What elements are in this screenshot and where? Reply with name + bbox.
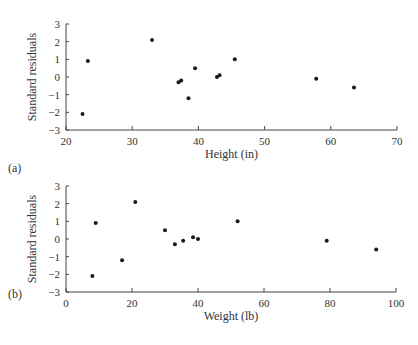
- x-tick-label: 80: [325, 297, 337, 309]
- x-tick-label: 30: [127, 135, 139, 147]
- data-point: [218, 73, 222, 77]
- data-point: [186, 96, 190, 100]
- data-point: [374, 248, 378, 252]
- data-point: [236, 219, 240, 223]
- x-tick-label: 60: [325, 135, 337, 147]
- y-tick-label: 2: [55, 198, 61, 210]
- y-tick-label: 1: [55, 215, 61, 227]
- y-tick-label: −3: [48, 286, 60, 298]
- data-point: [173, 242, 177, 246]
- x-tick-label: 40: [193, 135, 205, 147]
- x-tick-label: 20: [127, 297, 139, 309]
- residual-plots-figure: 3210−1−2−3203040506070Height (in)Standar…: [0, 0, 418, 345]
- x-axis-title: Weight (lb): [204, 309, 259, 323]
- y-tick-label: 2: [55, 36, 61, 48]
- x-tick-label: 20: [61, 135, 73, 147]
- data-point: [150, 38, 154, 42]
- y-tick-label: −3: [48, 124, 60, 136]
- x-tick-label: 40: [193, 297, 205, 309]
- data-point: [179, 79, 183, 83]
- data-point: [90, 274, 94, 278]
- data-point: [233, 57, 237, 61]
- y-tick-label: 1: [55, 53, 61, 65]
- x-tick-label: 50: [259, 135, 271, 147]
- data-point: [193, 66, 197, 70]
- x-tick-label: 0: [63, 297, 69, 309]
- y-tick-label: −1: [48, 89, 60, 101]
- x-tick-label: 60: [259, 297, 271, 309]
- y-tick-label: 3: [55, 18, 61, 30]
- x-tick-label: 100: [388, 297, 405, 309]
- data-point: [181, 239, 185, 243]
- data-point: [191, 235, 195, 239]
- y-axis-title: Standard residuals: [25, 33, 39, 122]
- data-point: [352, 86, 356, 90]
- y-tick-label: 3: [55, 180, 61, 192]
- panel-b-weight: 3210−1−2−3020406080100Weight (lb)Standar…: [8, 180, 405, 323]
- panel-label: (a): [8, 161, 21, 175]
- data-point: [325, 239, 329, 243]
- y-tick-label: 0: [55, 71, 61, 83]
- y-tick-label: −1: [48, 251, 60, 263]
- y-axis-title: Standard residuals: [25, 195, 39, 284]
- data-point: [314, 77, 318, 81]
- data-point: [86, 59, 90, 63]
- data-point: [163, 228, 167, 232]
- panel-a-height: 3210−1−2−3203040506070Height (in)Standar…: [8, 18, 403, 175]
- panel-label: (b): [8, 287, 22, 301]
- data-point: [120, 258, 124, 262]
- data-point: [94, 221, 98, 225]
- x-tick-label: 70: [392, 135, 404, 147]
- x-axis-title: Height (in): [205, 147, 258, 161]
- data-point: [196, 237, 200, 241]
- y-tick-label: −2: [48, 268, 60, 280]
- data-point: [133, 200, 137, 204]
- y-tick-label: −2: [48, 106, 60, 118]
- y-tick-label: 0: [55, 233, 61, 245]
- data-point: [81, 112, 85, 116]
